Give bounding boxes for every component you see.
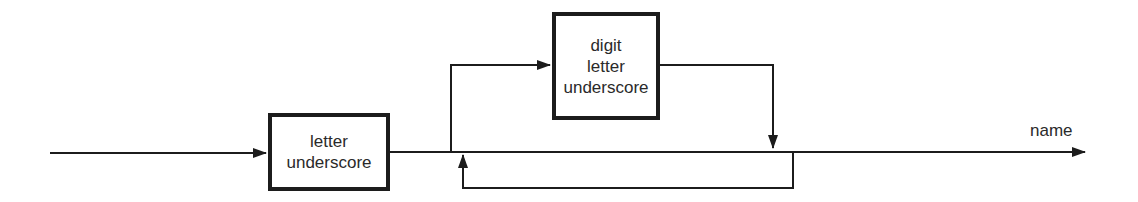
box-line: underscore (286, 152, 371, 173)
box-line: underscore (563, 77, 648, 98)
box-line: digit (590, 35, 621, 56)
return-arrow (660, 65, 773, 148)
box-digit-letter-underscore: digit letter underscore (552, 12, 660, 120)
box-line: letter (587, 56, 625, 77)
loop-arrow (463, 152, 793, 188)
branch-arrow (451, 65, 550, 152)
box-line: letter (310, 131, 348, 152)
box-letter-underscore: letter underscore (268, 113, 390, 191)
output-label: name (1030, 120, 1073, 141)
